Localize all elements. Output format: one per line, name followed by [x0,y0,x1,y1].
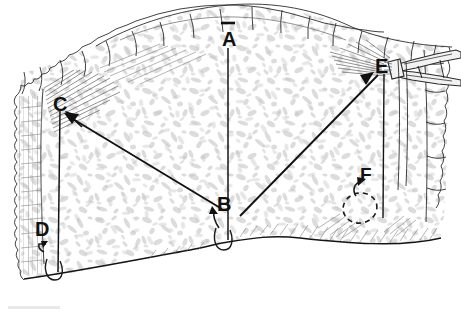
label-d: D [35,218,49,240]
anatomical-drawing: A C E B D F [0,0,461,314]
label-f: F [360,164,372,185]
label-b: B [217,193,231,215]
label-e: E [375,55,388,77]
label-a: A [222,28,236,50]
label-c: C [53,93,67,115]
figure-root: A C E B D F [0,0,461,314]
left-scalloped-border [14,89,44,280]
scan-artifact [8,306,60,309]
line-e-vertical [383,74,384,218]
